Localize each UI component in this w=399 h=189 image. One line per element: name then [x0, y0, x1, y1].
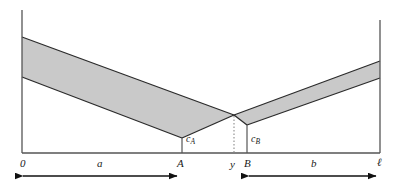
cost-label-a: cA [186, 134, 195, 146]
figure-container: 0 A y B ℓ a b cA cB [0, 0, 399, 189]
segment-label-a: a [97, 158, 103, 169]
axis-label-point-y: y [230, 159, 235, 170]
axis-label-point-a: A [177, 158, 184, 169]
cost-band-b [234, 61, 380, 125]
cost-label-b-subscript: B [255, 137, 260, 146]
axis-label-point-l: ℓ [377, 157, 382, 168]
axis-label-point-b: B [244, 158, 251, 169]
cost-label-a-subscript: A [190, 137, 195, 146]
cost-band-b-upper-edge [234, 61, 380, 115]
segment-label-b: b [311, 158, 317, 169]
diagram-canvas [0, 0, 399, 189]
cost-label-b: cB [251, 134, 260, 146]
cost-band-a [22, 37, 234, 138]
axis-label-origin: 0 [20, 158, 26, 169]
